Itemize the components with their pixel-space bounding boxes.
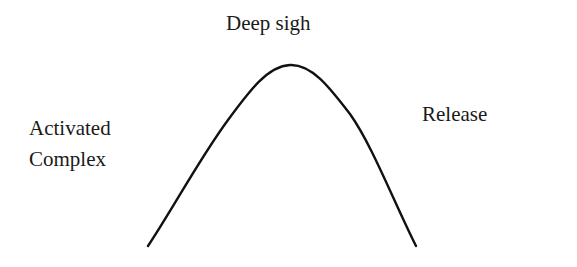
release-label: Release — [422, 104, 487, 125]
activated-complex-line2: Complex — [29, 144, 111, 175]
peak-label: Deep sigh — [226, 13, 311, 34]
activated-complex-line1: Activated — [29, 113, 111, 144]
diagram-canvas: Deep sigh Activated Complex Release — [0, 0, 577, 267]
activated-complex-label: Activated Complex — [29, 113, 111, 175]
curve-path — [148, 65, 416, 246]
